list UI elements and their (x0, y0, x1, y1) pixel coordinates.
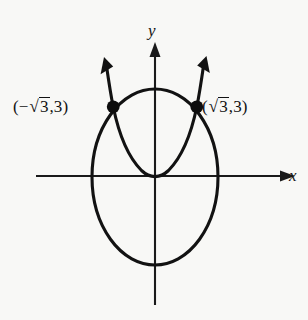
math-figure: y x (−√3,3) (√3,3) (0, 0, 308, 320)
intersection-point-left (107, 100, 120, 113)
point-label-right: (√3,3) (202, 97, 248, 115)
x-axis-label: x (289, 167, 297, 184)
left-radicand: 3 (39, 97, 50, 115)
left-radical-sign: √ (29, 98, 38, 115)
y-axis-label: y (148, 22, 156, 39)
right-radical-sign: √ (209, 98, 218, 115)
left-close-paren: ) (62, 97, 68, 116)
right-y-value: 3 (233, 97, 242, 116)
left-radical: √3 (28, 97, 49, 115)
y-axis-arrowhead (150, 42, 161, 57)
right-close-paren: ) (242, 97, 248, 116)
left-minus-sign: − (19, 97, 29, 116)
point-label-left: (−√3,3) (13, 97, 68, 115)
right-radical: √3 (208, 97, 229, 115)
right-radicand: 3 (218, 97, 229, 115)
coordinate-plane-graphic (0, 0, 308, 320)
